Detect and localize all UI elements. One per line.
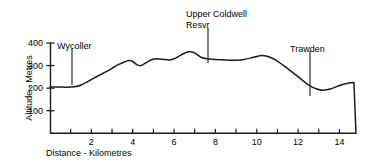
annotation-label: Trawden	[290, 44, 325, 54]
x-tick-label: 12	[293, 137, 303, 147]
x-tick-label: 8	[213, 137, 218, 147]
x-axis-title: Distance - Kilometres	[46, 148, 132, 158]
elevation-profile-chart: 100200300400 Altitude - Metres 246810121…	[0, 0, 366, 167]
chart-canvas: 100200300400 Altitude - Metres 246810121…	[0, 0, 366, 167]
x-tick-label: 2	[89, 137, 94, 147]
x-tick-label: 14	[334, 137, 344, 147]
x-tick-label: 4	[130, 137, 135, 147]
y-axis-title: Altitude - Metres	[24, 55, 34, 121]
y-tick-label: 400	[28, 38, 43, 48]
x-tick-label: 10	[252, 137, 262, 147]
annotation-label: Upper Coldwell	[186, 9, 247, 19]
x-tick-label: 6	[172, 137, 177, 147]
plot-background	[0, 0, 366, 167]
annotation-label-line2: Resvr	[186, 20, 210, 30]
annotation-label: Wycoller	[57, 41, 91, 51]
